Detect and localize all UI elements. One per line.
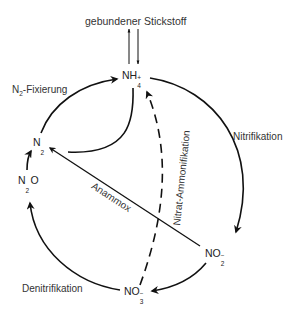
n2-subscript: 2 [41, 150, 45, 157]
nh4-subscript: 4 [137, 83, 141, 90]
fixation-suffix: -Fixierung [23, 84, 67, 95]
nitrification-label: Nitrifikation [233, 132, 282, 142]
node-n2: N2 [33, 137, 46, 148]
no3-charge: − [140, 291, 144, 298]
node-no3: NO−3 [124, 286, 145, 297]
no2-base: NO [205, 247, 221, 259]
nitrate-ammonification-arrow [140, 92, 162, 285]
no2-charge: − [221, 253, 225, 260]
n2o-subscript: 2 [26, 188, 30, 195]
n2-base: N [33, 136, 41, 148]
bound-nitrogen-label: gebundener Stickstoff [85, 16, 186, 27]
nitrification-arrow [150, 78, 243, 232]
denitrification-arrow [30, 203, 120, 290]
denitrification-label: Denitrifikation [22, 284, 83, 294]
n2o-tail: O [31, 174, 39, 186]
no3-subscript: 3 [140, 299, 144, 306]
node-n2o: N2O [18, 175, 39, 186]
anammox-nh4-branch [68, 88, 133, 152]
n2o-base: N [18, 174, 26, 186]
nitrogen-cycle-arrows [0, 0, 302, 311]
nh4-base: NH [122, 69, 137, 81]
n2o-n2-arrow [27, 151, 31, 170]
fixation-label: N2-Fixierung [12, 85, 67, 95]
no2-no3-arrow [152, 263, 206, 291]
node-nh4: NH+4 [122, 70, 142, 81]
no3-base: NO [124, 285, 140, 297]
no2-subscript: 2 [221, 261, 225, 268]
node-no2: NO−2 [205, 248, 226, 259]
nh4-charge: + [137, 75, 141, 82]
